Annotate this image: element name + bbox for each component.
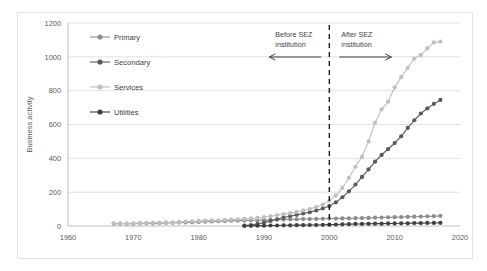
data-point xyxy=(386,221,390,225)
y-axis-title: Business activity xyxy=(25,96,34,152)
data-point xyxy=(425,214,429,218)
data-point xyxy=(275,213,279,217)
x-tick-label: 1960 xyxy=(60,233,76,242)
data-point xyxy=(138,221,142,225)
series-line xyxy=(244,100,440,226)
after-sez-arrow-icon xyxy=(339,54,391,60)
data-point xyxy=(223,218,227,222)
data-point xyxy=(314,217,318,221)
data-point xyxy=(353,165,357,169)
data-point xyxy=(373,222,377,226)
data-point xyxy=(118,221,122,225)
data-point xyxy=(419,111,423,115)
data-point xyxy=(380,107,384,111)
data-point xyxy=(386,215,390,219)
x-tick-label: 2020 xyxy=(452,233,468,242)
data-point xyxy=(125,221,129,225)
y-tick-label: 800 xyxy=(49,86,61,95)
data-point xyxy=(353,216,357,220)
data-point xyxy=(347,216,351,220)
data-point xyxy=(393,221,397,225)
data-point xyxy=(412,118,416,122)
data-point xyxy=(438,221,442,225)
data-point xyxy=(380,222,384,226)
data-point xyxy=(190,219,194,223)
data-point xyxy=(373,121,377,125)
legend-label: Primary xyxy=(114,33,140,42)
after-sez-label-line2: institution xyxy=(341,40,371,49)
series-services xyxy=(112,40,443,226)
data-point xyxy=(412,221,416,225)
data-point xyxy=(366,139,370,143)
data-point xyxy=(366,216,370,220)
data-point xyxy=(268,214,272,218)
data-point xyxy=(438,40,442,44)
data-point xyxy=(203,218,207,222)
data-point xyxy=(412,215,416,219)
data-point xyxy=(236,217,240,221)
data-point xyxy=(380,153,384,157)
data-point xyxy=(419,214,423,218)
data-point xyxy=(340,186,344,190)
data-point xyxy=(151,221,155,225)
legend-marker xyxy=(97,59,102,64)
data-point xyxy=(360,175,364,179)
data-point xyxy=(373,160,377,164)
y-gridlines: 020040060080010001200 xyxy=(45,19,460,231)
x-tick-label: 1990 xyxy=(256,233,272,242)
before-sez-label-line2: institution xyxy=(275,40,305,49)
legend-item-secondary[interactable]: Secondary xyxy=(90,58,151,67)
data-point xyxy=(268,219,272,223)
data-point xyxy=(262,224,266,228)
data-point xyxy=(425,221,429,225)
data-point xyxy=(249,224,253,228)
data-point xyxy=(347,176,351,180)
legend-item-utilities[interactable]: Utilities xyxy=(90,108,139,117)
data-point xyxy=(353,182,357,186)
data-point xyxy=(406,215,410,219)
data-point xyxy=(334,222,338,226)
data-point xyxy=(393,141,397,145)
data-point xyxy=(301,223,305,227)
data-point xyxy=(353,222,357,226)
data-point xyxy=(419,221,423,225)
data-point xyxy=(393,215,397,219)
data-point xyxy=(393,85,397,89)
data-point xyxy=(334,193,338,197)
data-point xyxy=(308,217,312,221)
data-point xyxy=(321,223,325,227)
data-point xyxy=(438,214,442,218)
data-point xyxy=(144,221,148,225)
data-point xyxy=(282,223,286,227)
data-point xyxy=(308,207,312,211)
data-point xyxy=(210,218,214,222)
legend-item-primary[interactable]: Primary xyxy=(90,33,140,42)
data-point xyxy=(412,56,416,60)
data-point xyxy=(386,147,390,151)
data-point xyxy=(288,223,292,227)
data-point xyxy=(229,217,233,221)
x-tick-label: 1970 xyxy=(125,233,141,242)
data-point xyxy=(268,223,272,227)
data-point xyxy=(255,224,259,228)
data-point xyxy=(321,203,325,207)
data-point xyxy=(366,222,370,226)
data-point xyxy=(399,215,403,219)
data-point xyxy=(301,208,305,212)
data-point xyxy=(334,216,338,220)
data-point xyxy=(164,220,168,224)
data-point xyxy=(275,223,279,227)
data-point xyxy=(360,155,364,159)
data-point xyxy=(255,216,259,220)
legend-marker xyxy=(97,34,102,39)
x-tick-label: 2010 xyxy=(386,233,402,242)
data-point xyxy=(399,75,403,79)
data-point xyxy=(432,221,436,225)
data-point xyxy=(295,210,299,214)
data-point xyxy=(340,216,344,220)
data-point xyxy=(432,214,436,218)
data-point xyxy=(360,222,364,226)
data-point xyxy=(380,215,384,219)
x-tick-labels: 1960197019801990200020102020 xyxy=(60,233,468,242)
y-tick-label: 600 xyxy=(49,120,61,129)
